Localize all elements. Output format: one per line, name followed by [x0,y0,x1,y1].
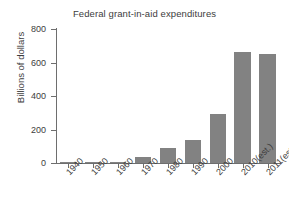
chart-title: Federal grant-in-aid expenditures [0,8,289,19]
y-tick-0 [51,163,56,164]
y-tick-label-200: 200 [31,125,46,135]
plot-area [56,29,280,163]
bar-2000 [210,114,226,163]
y-tick-label-0: 0 [41,158,46,168]
y-tick-label-800: 800 [31,24,46,34]
y-tick-label-400: 400 [31,91,46,101]
bar-chart: Federal grant-in-aid expenditures Billio… [0,0,289,218]
y-axis-label: Billions of dollars [15,8,26,128]
bar-2010(est.) [234,52,250,163]
y-tick-label-600: 600 [31,58,46,68]
